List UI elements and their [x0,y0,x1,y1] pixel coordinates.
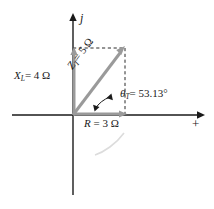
axis-label-j: j [80,12,83,24]
angle-arc-group [93,93,113,111]
reactance-value: 4 [34,69,40,81]
angle-arc-arrowhead-lower [93,105,99,112]
vector-resistance-arrowhead [119,110,127,117]
scan-artifact-curve [95,133,124,155]
resistance-symbol: R [84,117,91,129]
angle-equals: = [130,87,136,99]
vertical-axis-arrowhead [69,13,76,21]
resistance-equals: = [93,117,99,129]
axis-label-plus: + [192,117,199,130]
angle-arc-arrowhead-upper [107,93,113,100]
label-resistance: R = 3 Ω [84,118,119,129]
reactance-symbol: X [14,69,21,81]
resistance-value: 3 [102,117,108,129]
label-reactance: XL= 4 Ω [14,70,50,83]
reactance-unit: Ω [42,69,50,81]
diagram-canvas [0,0,214,209]
axis-group [12,13,205,195]
vector-impedance-arrowhead [116,46,125,55]
label-angle: θT= 53.13° [120,88,168,101]
reactance-equals: = [25,69,31,81]
impedance-phasor-diagram: j + XL= 4 Ω ZT= 5 Ω R = 3 Ω θT= 53.13° [0,0,214,209]
resistance-unit: Ω [111,117,119,129]
angle-unit: ° [163,87,167,99]
angle-value: 53.13 [139,87,164,99]
